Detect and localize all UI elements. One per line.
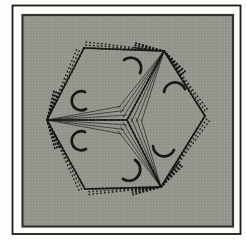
scanned-book-figure [0, 0, 246, 241]
hexagon-rotation-figure [0, 0, 246, 241]
